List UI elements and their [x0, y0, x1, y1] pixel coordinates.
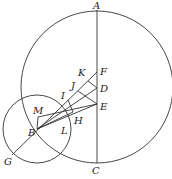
label-E: E — [99, 101, 108, 112]
label-L: L — [60, 125, 68, 136]
label-F: F — [99, 66, 108, 77]
label-G: G — [4, 156, 12, 167]
label-M: M — [32, 105, 44, 116]
label-B: B — [27, 127, 35, 138]
label-K: K — [77, 67, 86, 78]
label-A: A — [92, 0, 100, 11]
label-H: H — [73, 115, 83, 126]
geometry-diagram: A F K D J E I M H L B G C — [0, 0, 172, 179]
label-C: C — [92, 165, 100, 176]
line-B-D — [37, 88, 97, 129]
perp-J-E — [78, 91, 97, 104]
label-I: I — [60, 90, 66, 101]
large-circle — [21, 11, 172, 163]
line-M-B — [37, 117, 38, 129]
label-J: J — [69, 80, 76, 91]
label-D: D — [99, 83, 108, 94]
perp-K-D — [88, 81, 97, 88]
